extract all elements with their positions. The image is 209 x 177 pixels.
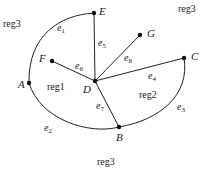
region-label-reg1: reg1 — [47, 81, 65, 92]
vertex-label-B: B — [116, 131, 123, 143]
region-label-reg3-top-right: reg3 — [178, 3, 196, 14]
edge-e2 — [29, 83, 119, 129]
vertex-label-F: F — [38, 52, 46, 64]
vertex-label-G: G — [147, 27, 155, 39]
vertex-label-D: D — [82, 83, 91, 95]
edge-label-e3: e3 — [177, 101, 185, 114]
edge-e6 — [52, 61, 95, 81]
edge-label-e6: e6 — [75, 60, 83, 73]
vertex-F — [50, 59, 54, 63]
vertex-E — [92, 11, 96, 15]
region-label-reg3-bottom: reg3 — [97, 156, 115, 167]
region-label-reg2: reg2 — [139, 89, 157, 100]
edge-label-e1: e1 — [57, 22, 65, 35]
edge-e5 — [94, 13, 95, 81]
vertex-A — [27, 81, 31, 85]
region-label-reg3-top-left: reg3 — [3, 18, 21, 29]
edge-label-e4: e4 — [148, 70, 156, 83]
vertex-label-E: E — [98, 5, 106, 17]
vertex-G — [138, 33, 142, 37]
edge-label-e2: e2 — [44, 122, 52, 135]
edge-label-e5: e5 — [98, 37, 106, 50]
edges-layer — [29, 13, 185, 129]
edge-e4 — [95, 58, 184, 81]
labels-layer: e1e2e3e4e5e6e7e8ABCDEFGreg1reg2reg3reg3r… — [3, 3, 199, 167]
edge-label-e8: e8 — [124, 52, 132, 65]
vertex-label-C: C — [191, 50, 199, 62]
planar-graph-diagram: e1e2e3e4e5e6e7e8ABCDEFGreg1reg2reg3reg3r… — [0, 0, 209, 177]
vertex-B — [117, 125, 121, 129]
vertex-label-A: A — [17, 78, 25, 90]
edge-label-e7: e7 — [96, 100, 104, 113]
vertex-D — [93, 79, 97, 83]
edge-e1 — [29, 13, 94, 83]
vertex-C — [182, 56, 186, 60]
